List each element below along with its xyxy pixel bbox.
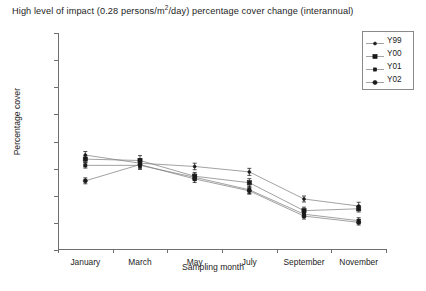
series-Y02: [83, 161, 361, 225]
data-point: [83, 157, 87, 161]
data-point: [357, 220, 361, 224]
legend-item-Y02[interactable]: Y02: [365, 73, 410, 86]
data-point: [302, 214, 306, 218]
legend: Y99Y00Y01Y02: [362, 31, 414, 90]
series-layer: [58, 33, 386, 250]
chart-title: High level of impact (0.28 persons/m2/da…: [12, 4, 353, 16]
x-tick-label: May: [187, 257, 203, 267]
legend-label: Y01: [387, 62, 402, 71]
data-point: [303, 198, 306, 201]
x-tick: [386, 249, 387, 253]
x-tick-label: January: [70, 257, 100, 267]
data-point: [373, 68, 376, 71]
series-line: [85, 155, 358, 206]
legend-item-Y01[interactable]: Y01: [365, 60, 410, 73]
legend-item-Y99[interactable]: Y99: [365, 34, 410, 47]
data-point: [247, 181, 251, 185]
series-line: [85, 165, 358, 223]
data-point: [373, 54, 377, 58]
series-line: [85, 165, 358, 220]
series-Y01: [83, 161, 360, 223]
data-point: [193, 177, 197, 181]
chart-title-before: High level of impact (0.28 persons/m: [12, 6, 165, 16]
legend-marker-icon: [365, 61, 385, 72]
data-point: [83, 179, 87, 183]
data-point: [247, 189, 251, 193]
data-point: [357, 207, 361, 211]
y-axis-title: Percentage cover: [12, 88, 22, 155]
x-tick-label: September: [284, 257, 325, 267]
data-point: [373, 80, 377, 84]
data-point: [374, 42, 377, 45]
data-point: [193, 165, 196, 168]
legend-label: Y02: [387, 75, 402, 84]
legend-marker-icon: [365, 35, 385, 46]
data-point: [84, 164, 87, 167]
legend-label: Y99: [387, 36, 402, 45]
x-tick-label: July: [242, 257, 257, 267]
legend-marker-icon: [365, 74, 385, 85]
x-tick-label: November: [339, 257, 378, 267]
data-point: [138, 162, 142, 166]
chart-figure: High level of impact (0.28 persons/m2/da…: [0, 0, 426, 291]
data-point: [248, 170, 251, 173]
x-tick-label: March: [128, 257, 151, 267]
legend-label: Y00: [387, 49, 402, 58]
chart-title-after: /day) percentage cover change (interannu…: [168, 6, 353, 16]
plot-area: 2030405060708090100 JanuaryMarchMayJulyS…: [58, 33, 386, 250]
legend-item-Y00[interactable]: Y00: [365, 47, 410, 60]
legend-marker-icon: [365, 48, 385, 59]
